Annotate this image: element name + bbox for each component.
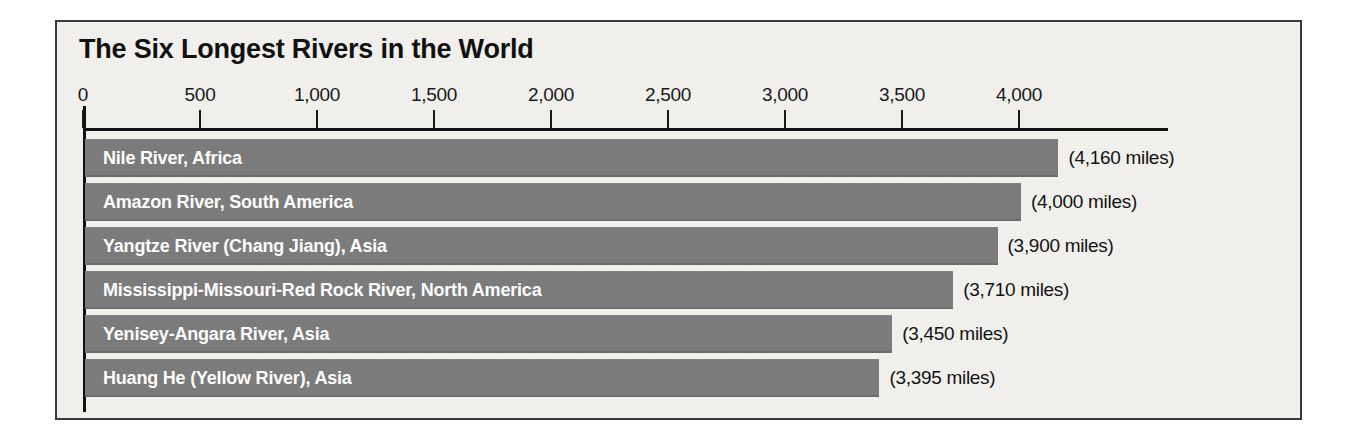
x-axis-tick-mark (550, 110, 552, 128)
x-axis-tick-label: 1,000 (294, 84, 340, 106)
bar-series: Nile River, Africa(4,160 miles)Amazon Ri… (85, 139, 1300, 403)
x-axis-tick-label: 1,500 (411, 84, 457, 106)
bar-category-label: Yangtze River (Chang Jiang), Asia (103, 227, 387, 265)
x-axis-tick-label: 4,000 (996, 84, 1042, 106)
bar-category-label: Huang He (Yellow River), Asia (103, 359, 352, 397)
x-axis-tick-label: 3,500 (879, 84, 925, 106)
bar-value-label: (4,160 miles) (1068, 139, 1174, 177)
bar-category-label: Yenisey-Angara River, Asia (103, 315, 329, 353)
bar-value-label: (3,395 miles) (889, 359, 995, 397)
bar-row: Mississippi-Missouri-Red Rock River, Nor… (85, 271, 1300, 309)
bar-row: Amazon River, South America(4,000 miles) (85, 183, 1300, 221)
x-axis-tick-mark (1018, 110, 1020, 128)
chart-screenshot: The Six Longest Rivers in the World 0500… (0, 0, 1352, 444)
bar-value-label: (3,710 miles) (963, 271, 1069, 309)
bar-row: Yenisey-Angara River, Asia(3,450 miles) (85, 315, 1300, 353)
bar-value-label: (3,900 miles) (1008, 227, 1114, 265)
x-axis-tick-mark (316, 110, 318, 128)
x-axis-tick-label: 2,500 (645, 84, 691, 106)
x-axis-tick-label: 2,000 (528, 84, 574, 106)
x-axis-tick-label: 0 (78, 84, 88, 106)
x-axis-line (83, 128, 1168, 131)
bar-row: Nile River, Africa(4,160 miles) (85, 139, 1300, 177)
x-axis-tick-mark (901, 110, 903, 128)
bar-value-label: (4,000 miles) (1031, 183, 1137, 221)
x-axis-tick-mark (82, 110, 84, 128)
x-axis-tick-mark (433, 110, 435, 128)
bar-value-label: (3,450 miles) (902, 315, 1008, 353)
bar-category-label: Nile River, Africa (103, 139, 242, 177)
x-axis-tick-mark (784, 110, 786, 128)
bar-row: Huang He (Yellow River), Asia(3,395 mile… (85, 359, 1300, 397)
bar-category-label: Mississippi-Missouri-Red Rock River, Nor… (103, 271, 541, 309)
x-axis-tick-mark (667, 110, 669, 128)
chart-panel: The Six Longest Rivers in the World 0500… (55, 20, 1302, 420)
x-axis-tick-mark (199, 110, 201, 128)
x-axis-tick-label: 500 (185, 84, 216, 106)
bar-row: Yangtze River (Chang Jiang), Asia(3,900 … (85, 227, 1300, 265)
bar-category-label: Amazon River, South America (103, 183, 353, 221)
x-axis-tick-label: 3,000 (762, 84, 808, 106)
